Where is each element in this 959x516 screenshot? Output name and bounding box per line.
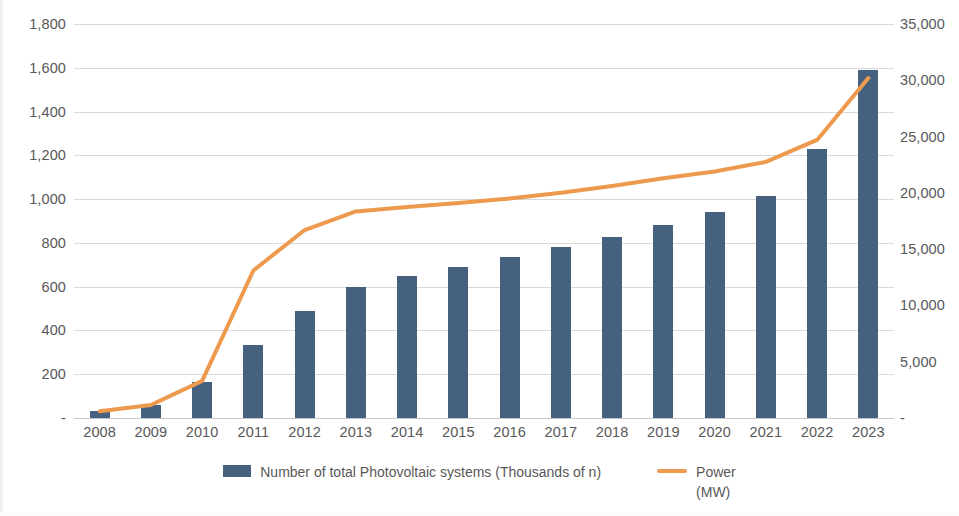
bar[interactable] [243,345,263,418]
left-axis-tick-label: 1,000 [2,191,66,207]
left-axis-tick-label: 1,800 [2,16,66,32]
bar[interactable] [448,267,468,418]
plot-area [74,24,894,418]
bar[interactable] [192,382,212,418]
x-axis-tick-label: 2013 [330,424,381,448]
x-axis-tick-label: 2011 [228,424,279,448]
left-axis-tick-label: 200 [2,366,66,382]
bar-slot [74,24,125,418]
bar-slot [843,24,894,418]
bar[interactable] [500,257,520,418]
bar[interactable] [807,149,827,418]
bar[interactable] [141,405,161,418]
left-axis-tick-label: 800 [2,235,66,251]
left-axis-tick-label: - [2,410,66,426]
x-axis-tick-label: 2015 [433,424,484,448]
x-axis-tick-label: 2014 [382,424,433,448]
right-axis-tick-label: 25,000 [900,129,959,145]
x-axis-tick-label: 2021 [740,424,791,448]
bar[interactable] [653,225,673,418]
x-axis-tick-label: 2010 [177,424,228,448]
right-axis-tick-label: 30,000 [900,72,959,88]
bar-slot [792,24,843,418]
left-axis-tick-label: 1,400 [2,104,66,120]
right-axis-tick-label: - [900,410,959,426]
bar-slot [125,24,176,418]
bar-series [74,24,894,418]
chart-legend: Number of total Photovoltaic systems (Th… [0,462,959,503]
bar[interactable] [397,276,417,418]
bar[interactable] [756,196,776,418]
photovoltaic-chart: -2004006008001,0001,2001,4001,6001,800 -… [0,0,959,516]
x-axis-tick-label: 2022 [792,424,843,448]
bar[interactable] [705,212,725,418]
bar-slot [638,24,689,418]
right-axis-tick-label: 15,000 [900,241,959,257]
bar[interactable] [551,247,571,418]
legend-label-systems: Number of total Photovoltaic systems (Th… [260,462,601,482]
bar[interactable] [602,237,622,418]
gridline [74,418,894,419]
scan-edge-bottom [0,512,959,516]
legend-label-power: Power (MW) [696,462,736,503]
bar-slot [484,24,535,418]
line-swatch-icon [657,469,687,473]
right-axis-tick-label: 5,000 [900,354,959,370]
x-axis-ticks: 2008200920102011201220132014201520162017… [74,424,894,448]
bar-slot [433,24,484,418]
x-axis-tick-label: 2020 [689,424,740,448]
bar-swatch-icon [223,465,251,477]
bar-slot [740,24,791,418]
x-axis-tick-label: 2017 [535,424,586,448]
legend-item-power[interactable]: Power (MW) [657,462,736,503]
x-axis-tick-label: 2008 [74,424,125,448]
left-axis-ticks: -2004006008001,0001,2001,4001,6001,800 [0,24,66,418]
bar[interactable] [295,311,315,418]
x-axis-tick-label: 2019 [638,424,689,448]
right-axis-tick-label: 10,000 [900,297,959,313]
x-axis-tick-label: 2018 [587,424,638,448]
right-axis-tick-label: 35,000 [900,16,959,32]
right-axis-tick-label: 20,000 [900,185,959,201]
bar-slot [279,24,330,418]
x-axis-tick-label: 2023 [843,424,894,448]
x-axis-tick-label: 2009 [125,424,176,448]
bar-slot [330,24,381,418]
bar-slot [535,24,586,418]
x-axis-tick-label: 2016 [484,424,535,448]
bar[interactable] [346,287,366,418]
bar-slot [587,24,638,418]
left-axis-tick-label: 600 [2,279,66,295]
bar-slot [228,24,279,418]
left-axis-tick-label: 400 [2,322,66,338]
bar-slot [177,24,228,418]
right-axis-ticks: -5,00010,00015,00020,00025,00030,00035,0… [900,24,959,418]
x-axis-tick-label: 2012 [279,424,330,448]
bar-slot [382,24,433,418]
left-axis-tick-label: 1,600 [2,60,66,76]
left-axis-tick-label: 1,200 [2,147,66,163]
bar-slot [689,24,740,418]
legend-item-systems[interactable]: Number of total Photovoltaic systems (Th… [223,462,601,482]
bar[interactable] [90,411,110,418]
bar[interactable] [858,70,878,418]
